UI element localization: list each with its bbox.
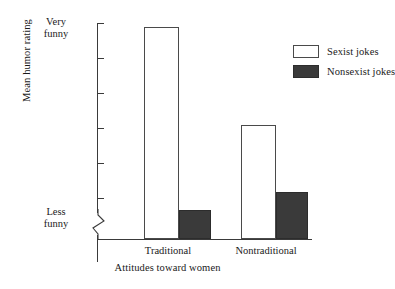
axis-top-endpoint-label: Very funny	[36, 16, 76, 40]
legend-label-sexist-jokes: Sexist jokes	[327, 46, 379, 57]
plot-area: 3.00 2.90 2.80 2.70 2.60 2.50 0 Sexist j…	[97, 23, 312, 239]
legend-label-nonsexist-jokes: Nonsexist jokes	[327, 66, 395, 77]
y-tick-2.60	[98, 163, 104, 164]
axis-bottom-endpoint-line2: funny	[36, 218, 76, 230]
axis-bottom-endpoint-line1: Less	[36, 206, 76, 218]
x-axis-line	[97, 239, 312, 240]
bar-nontraditional-sexist	[241, 125, 276, 239]
legend: Sexist jokes Nonsexist jokes	[293, 45, 395, 85]
axis-top-endpoint-line1: Very	[36, 16, 76, 28]
y-tick-3.00	[98, 23, 104, 24]
y-tick-2.90	[98, 58, 104, 59]
legend-swatch-open-icon	[293, 45, 319, 58]
y-tick-2.70	[98, 128, 104, 129]
bar-traditional-sexist	[144, 27, 179, 239]
y-tick-2.80	[98, 93, 104, 94]
x-category-label-traditional: Traditional	[118, 245, 218, 256]
axis-break-icon	[91, 209, 107, 239]
x-axis-title: Attitudes toward women	[0, 262, 335, 273]
bar-nontraditional-nonsexist	[276, 192, 308, 239]
legend-swatch-filled-icon	[293, 65, 319, 78]
bar-traditional-nonsexist	[179, 210, 211, 239]
y-axis-title: Mean humor rating	[21, 0, 32, 131]
x-category-label-nontraditional: Nontraditional	[206, 245, 326, 256]
y-tick-2.50	[98, 198, 104, 199]
axis-bottom-endpoint-label: Less funny	[36, 206, 76, 230]
axis-top-endpoint-line2: funny	[36, 28, 76, 40]
legend-item-nonsexist-jokes: Nonsexist jokes	[293, 65, 395, 78]
legend-item-sexist-jokes: Sexist jokes	[293, 45, 395, 58]
y-axis-line-upper	[97, 23, 98, 213]
